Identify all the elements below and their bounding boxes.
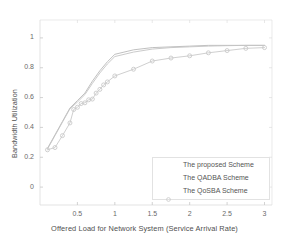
y-tick-label: 1: [8, 33, 34, 40]
chart-legend: The proposed Scheme The QADBA Scheme The…: [152, 157, 270, 200]
y-axis-label: Bandwidth Utilization: [10, 64, 19, 184]
y-tick-label: 0: [8, 183, 34, 190]
legend-item-qosba: The QoSBA Scheme: [153, 185, 271, 198]
series-line-1: [47, 45, 264, 149]
x-tick-label: 0.5: [64, 210, 90, 217]
legend-item-proposed: The proposed Scheme: [153, 159, 271, 172]
x-tick-label: 2: [177, 210, 203, 217]
legend-label-qosba: The QoSBA Scheme: [183, 187, 248, 194]
x-tick-label: 1: [102, 210, 128, 217]
x-axis-label: Offered Load for Network System (Service…: [0, 224, 289, 233]
legend-item-qadba: The QADBA Scheme: [153, 172, 271, 185]
x-tick-label: 3: [252, 210, 278, 217]
legend-label-proposed: The proposed Scheme: [183, 161, 254, 168]
chart-figure: 00.20.40.60.810.511.522.53 Offered Load …: [0, 0, 289, 251]
series-line-2: [47, 48, 264, 150]
x-tick-label: 1.5: [139, 210, 165, 217]
legend-label-qadba: The QADBA Scheme: [183, 174, 249, 181]
legend-marker-qosba: [166, 188, 171, 193]
x-tick-label: 2.5: [214, 210, 240, 217]
